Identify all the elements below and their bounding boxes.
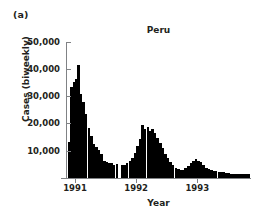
bar	[192, 161, 194, 179]
bar	[200, 162, 202, 178]
bar	[136, 146, 138, 179]
bar	[106, 162, 108, 178]
bar	[100, 154, 102, 179]
bar	[90, 136, 92, 178]
bar	[156, 138, 158, 179]
bar	[139, 139, 141, 179]
bar	[93, 144, 95, 178]
bar	[73, 82, 75, 179]
bar	[159, 143, 161, 178]
bar	[205, 168, 207, 179]
bar-series	[68, 65, 251, 178]
bar-peak-spike	[78, 65, 80, 178]
bar	[68, 142, 70, 179]
bar	[236, 174, 238, 179]
bar	[187, 166, 189, 178]
bar	[131, 158, 133, 178]
bar	[98, 150, 100, 179]
bar	[230, 174, 232, 179]
bar	[95, 147, 97, 178]
bar	[80, 94, 82, 179]
bar	[202, 165, 204, 179]
bar	[126, 163, 128, 178]
bar	[241, 174, 243, 178]
bar	[85, 114, 87, 178]
x-tick-label: 1993	[175, 183, 219, 193]
bar	[197, 161, 199, 179]
x-tick-label: 1991	[53, 183, 97, 193]
bar	[215, 171, 217, 178]
bar	[167, 158, 169, 178]
bar	[225, 173, 227, 178]
bar	[175, 168, 177, 179]
x-tick-label: 1992	[114, 183, 158, 193]
bar	[116, 164, 118, 178]
bar	[82, 102, 84, 178]
bar	[245, 174, 247, 178]
bar	[177, 169, 179, 179]
bar	[75, 79, 77, 179]
bar	[123, 165, 125, 179]
bar	[248, 174, 250, 178]
bar	[184, 168, 186, 178]
bar	[220, 172, 222, 178]
bar	[88, 128, 90, 179]
bar	[218, 172, 220, 179]
bar	[141, 125, 143, 178]
bar	[164, 154, 166, 179]
bar	[154, 133, 156, 178]
bar	[228, 173, 230, 178]
bar	[113, 165, 115, 179]
bar	[208, 169, 210, 179]
bar	[134, 153, 136, 179]
bar	[195, 159, 197, 178]
bar	[108, 163, 110, 178]
bar	[233, 174, 235, 179]
bar	[180, 170, 182, 178]
bar	[223, 172, 225, 178]
bar	[172, 165, 174, 179]
bar	[182, 170, 184, 179]
bar	[210, 170, 212, 178]
bar	[70, 87, 72, 178]
bar	[143, 129, 145, 178]
bar	[243, 174, 245, 178]
bar	[103, 161, 105, 179]
bar	[169, 162, 171, 178]
bar	[121, 165, 123, 178]
bar	[129, 161, 131, 179]
bar	[149, 131, 151, 179]
bar	[110, 163, 112, 178]
bar	[147, 127, 149, 179]
bar	[151, 129, 153, 178]
bar	[212, 171, 214, 179]
bar	[162, 148, 164, 178]
bar	[190, 163, 192, 178]
bar	[238, 174, 240, 178]
figure-panel-a: (a) Peru Cases (biweekly) Year 10,00020,…	[0, 0, 272, 221]
